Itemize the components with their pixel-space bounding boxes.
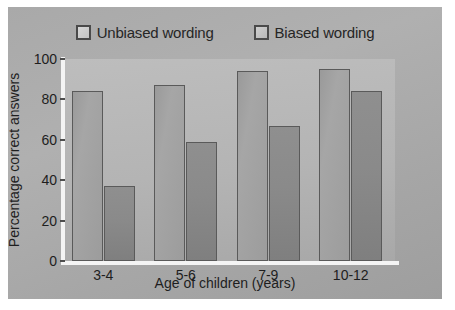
legend-item-biased-wording[interactable]: Biased wording	[254, 24, 375, 41]
y-axis-tick: 100	[25, 51, 65, 67]
bar-3-4-unbiased[interactable]	[72, 91, 103, 261]
y-axis-tick: 20	[25, 213, 65, 229]
y-axis-tick: 80	[25, 91, 65, 107]
bar-10-12-biased[interactable]	[351, 91, 382, 261]
x-axis-line	[61, 261, 399, 265]
y-axis-tick: 0	[25, 253, 65, 269]
y-axis-tick-label: 60	[25, 132, 57, 148]
chart-figure: Unbiased wording Biased wording Percenta…	[8, 7, 442, 299]
y-axis-tick-label: 80	[25, 91, 57, 107]
x-axis-title: Age of children (years)	[8, 275, 442, 291]
bar-5-6-unbiased[interactable]	[154, 85, 185, 261]
y-axis-tick-mark	[60, 179, 65, 181]
y-axis-tick-mark	[60, 139, 65, 141]
chart-legend: Unbiased wording Biased wording	[8, 19, 442, 45]
bar-3-4-biased[interactable]	[104, 186, 135, 261]
plot-wrapper: 020406080100 3-45-67-910-12	[65, 59, 395, 261]
y-axis-tick-mark	[60, 220, 65, 222]
bar-10-12-unbiased[interactable]	[319, 69, 350, 261]
y-axis-tick-mark	[60, 260, 65, 262]
bar-7-9-unbiased[interactable]	[237, 71, 268, 261]
legend-label-biased: Biased wording	[275, 24, 375, 41]
y-axis-tick-label: 100	[25, 51, 57, 67]
y-axis-tick-label: 0	[25, 253, 57, 269]
legend-swatch-icon-unbiased	[76, 25, 91, 40]
y-axis-title: Percentage correct answers	[6, 55, 22, 265]
y-axis-line	[61, 57, 65, 263]
y-axis-tick-label: 20	[25, 213, 57, 229]
legend-label-unbiased: Unbiased wording	[97, 24, 214, 41]
legend-swatch-icon-biased	[254, 25, 269, 40]
y-axis-tick: 60	[25, 132, 65, 148]
y-axis-tick-mark	[60, 58, 65, 60]
legend-item-unbiased-wording[interactable]: Unbiased wording	[76, 24, 214, 41]
bar-5-6-biased[interactable]	[186, 142, 217, 261]
y-axis-tick: 40	[25, 172, 65, 188]
y-axis-tick-label: 40	[25, 172, 57, 188]
y-axis-tick-mark	[60, 98, 65, 100]
bar-7-9-biased[interactable]	[269, 126, 300, 261]
